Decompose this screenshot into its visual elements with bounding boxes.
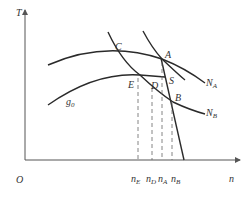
NB-label: NB bbox=[205, 107, 218, 120]
point-D-label: D bbox=[150, 80, 159, 91]
tick-nD: nD bbox=[146, 173, 156, 186]
point-E-label: E bbox=[127, 79, 134, 90]
NA-label: NA bbox=[205, 77, 218, 90]
point-A-label: A bbox=[164, 49, 172, 60]
g0-label: g0 bbox=[66, 96, 75, 109]
point-S-label: S bbox=[169, 75, 174, 86]
upper-curve bbox=[48, 51, 205, 83]
limit-line bbox=[161, 58, 184, 160]
point-C-label: C bbox=[115, 41, 122, 52]
diagram-canvas: T n O C A S E D B NA NB g0 nE nD nA nB bbox=[0, 0, 250, 199]
origin-label: O bbox=[16, 174, 23, 185]
x-axis-label: n bbox=[229, 173, 234, 184]
y-axis-label: T bbox=[16, 7, 23, 18]
point-B-label: B bbox=[175, 92, 181, 103]
tick-nA: nA bbox=[158, 173, 168, 186]
tick-nE: nE bbox=[131, 173, 141, 186]
tick-nB: nB bbox=[171, 173, 181, 186]
